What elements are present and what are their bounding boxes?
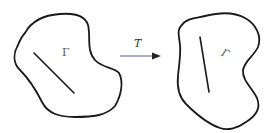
left-line-segment xyxy=(34,53,74,93)
transformation-diagram: Γ T Γ xyxy=(0,0,272,133)
right-region-boundary xyxy=(178,13,260,129)
right-gamma-label: Γ xyxy=(219,48,232,60)
left-region-boundary xyxy=(15,14,122,117)
transform-label: T xyxy=(134,37,143,50)
right-line-segment xyxy=(200,37,209,92)
transform-arrow-head-icon xyxy=(152,53,161,60)
left-gamma-label: Γ xyxy=(62,46,70,59)
